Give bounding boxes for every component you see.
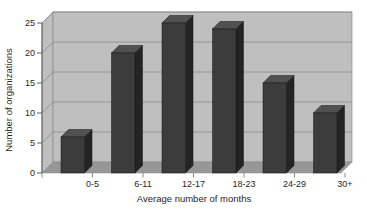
bar-side-face bbox=[337, 106, 345, 174]
bar-front-face bbox=[263, 83, 287, 173]
bar-front-face bbox=[314, 113, 338, 173]
x-tick-label: 12-17 bbox=[182, 179, 205, 189]
chart-canvas: 05101520250-56-1112-1718-2324-2930+ Aver… bbox=[0, 0, 367, 213]
bar-front-face bbox=[61, 137, 85, 173]
y-tick-label: 5 bbox=[30, 138, 35, 148]
y-axis-title: Number of organizations bbox=[3, 48, 14, 152]
bar-side-face bbox=[236, 22, 244, 174]
x-tick-label: 30+ bbox=[337, 179, 352, 189]
chart-3d-scene: 05101520250-56-1112-1718-2324-2930+ bbox=[25, 12, 353, 189]
chart-root: 05101520250-56-1112-1718-2324-2930+ Aver… bbox=[0, 0, 367, 213]
x-axis-title: Average number of months bbox=[137, 193, 252, 204]
bar-front-face bbox=[162, 23, 186, 173]
bar-side-face bbox=[186, 16, 194, 174]
y-tick-label: 20 bbox=[25, 48, 35, 58]
bar-front-face bbox=[213, 29, 237, 173]
bar-side-face bbox=[287, 76, 295, 174]
back-wall bbox=[53, 12, 352, 162]
y-tick-label: 25 bbox=[25, 18, 35, 28]
x-tick-label: 6-11 bbox=[134, 179, 151, 189]
left-wall bbox=[42, 12, 53, 173]
y-tick-label: 15 bbox=[25, 78, 35, 88]
bar-front-face bbox=[112, 53, 136, 173]
y-tick-label: 10 bbox=[25, 108, 35, 118]
x-tick-label: 0-5 bbox=[86, 179, 99, 189]
y-tick-label: 0 bbox=[30, 168, 35, 178]
bar-side-face bbox=[135, 46, 143, 174]
x-tick-label: 24-29 bbox=[283, 179, 306, 189]
x-tick-label: 18-23 bbox=[232, 179, 255, 189]
